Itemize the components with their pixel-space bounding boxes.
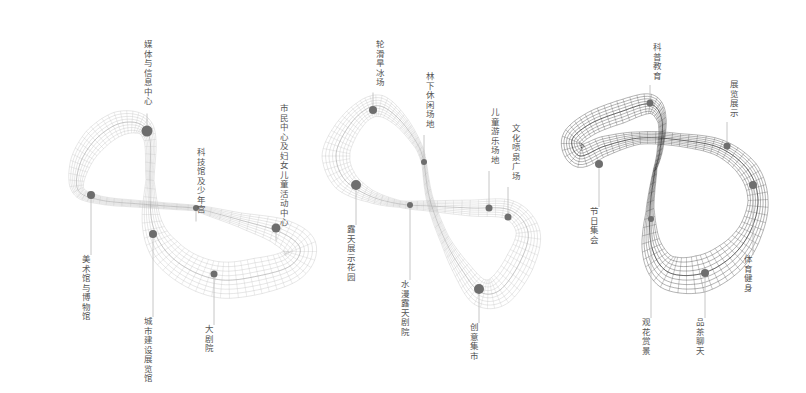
node-label: 露天展示花园 [345, 225, 355, 282]
node-dot [211, 271, 218, 278]
node-label: 节日集会 [588, 207, 598, 245]
node-label: 品茶聊天 [694, 318, 704, 356]
node-dot [407, 202, 413, 208]
node-dot [87, 191, 95, 199]
node-dot [369, 106, 377, 114]
node-label: 创意集市 [468, 323, 478, 361]
node-label: 儿童游乐场地 [489, 108, 499, 165]
node-dot [421, 159, 427, 165]
node-dot [749, 181, 757, 189]
node-label: 市民中心及妇女儿童活动中心 [278, 104, 288, 228]
node-dot [701, 269, 709, 277]
node-label: 文化喷泉广场 [510, 124, 520, 181]
node-label: 城市建设展览馆 [142, 317, 152, 384]
node-label: 美术馆与博物馆 [80, 255, 90, 322]
node-label: 林下休闲场地 [424, 72, 434, 129]
node-label: 展览展示 [728, 80, 738, 118]
node-dot [724, 143, 731, 150]
node-label: 水漫露天剧院 [399, 280, 409, 337]
node-dot [648, 216, 654, 222]
node-dot [595, 160, 603, 168]
node-label: 大剧院 [203, 325, 213, 354]
node-label: 观花赏景 [640, 318, 650, 356]
node-dots [87, 100, 757, 295]
node-dot [474, 284, 484, 294]
node-label: 体育健身 [742, 255, 752, 293]
node-dot [142, 126, 153, 137]
node-dot [647, 100, 654, 107]
node-label: 科技馆及少年宫 [195, 148, 205, 215]
node-dot [486, 205, 493, 212]
ribbon-mesh-3 [561, 94, 768, 294]
node-label: 轮滑旱冰场 [374, 40, 384, 88]
node-label: 媒体与信息中心 [142, 40, 152, 107]
ribbon-meshes [69, 94, 769, 309]
node-label: 科普教育 [651, 43, 661, 81]
node-dot [351, 180, 361, 190]
node-dot [149, 230, 157, 238]
node-dot [505, 214, 512, 221]
